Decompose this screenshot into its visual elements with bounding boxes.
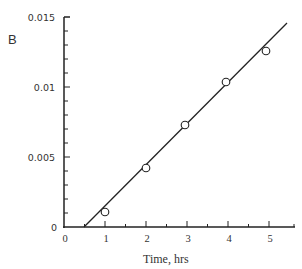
x-label-3: 3 <box>185 233 190 244</box>
x-tick-labels: 0 1 2 3 4 5 <box>62 233 272 244</box>
y-label-0: 0 <box>51 222 57 233</box>
x-label-5: 5 <box>267 233 272 244</box>
data-point <box>262 47 270 55</box>
y-ticks <box>64 31 70 213</box>
data-point <box>222 78 230 86</box>
y-axis <box>64 17 70 228</box>
x-axis-title: Time, hrs <box>143 252 189 266</box>
data-point <box>142 164 150 172</box>
data-points <box>101 47 270 216</box>
y-tick-labels: 0.015 0.01 0.005 0 <box>28 12 57 233</box>
y-label-0.005: 0.005 <box>28 152 55 163</box>
x-label-2: 2 <box>144 233 149 244</box>
x-label-0: 0 <box>62 233 67 244</box>
chart: 0.015 0.01 0.005 0 0 1 2 3 4 5 Time, hrs <box>0 0 302 269</box>
data-point <box>181 121 189 129</box>
y-label-0.01: 0.01 <box>34 82 55 93</box>
x-ticks <box>85 221 295 227</box>
data-point <box>101 208 109 216</box>
x-label-1: 1 <box>103 233 108 244</box>
y-label-0.015: 0.015 <box>28 12 55 23</box>
x-label-4: 4 <box>226 233 232 244</box>
